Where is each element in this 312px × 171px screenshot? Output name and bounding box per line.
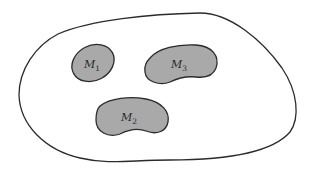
region-m3-subscript: 3 [182, 64, 187, 73]
outer-region-boundary [19, 13, 296, 162]
region-m3-symbol: M [170, 58, 183, 71]
set-diagram: M1 M3 M2 [0, 0, 312, 171]
region-m2-subscript: 2 [132, 117, 137, 126]
region-m2: M2 [96, 98, 168, 136]
region-m2-symbol: M [120, 111, 133, 124]
region-m1-symbol: M [83, 58, 96, 71]
region-m1-subscript: 1 [95, 64, 100, 73]
